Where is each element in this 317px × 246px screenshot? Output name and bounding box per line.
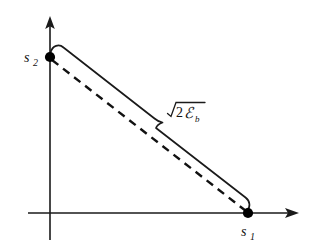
s1-label-subscript: 1	[250, 231, 255, 242]
s1-label-letter: s	[241, 224, 247, 239]
s1-point-dot	[243, 208, 253, 218]
s2-label-letter: s	[24, 50, 30, 65]
s2-point-dot	[45, 52, 55, 62]
coefficient-two: 2	[176, 105, 183, 120]
s2-label-subscript: 2	[33, 57, 38, 68]
constellation-diagram: s 2 s 1 2 ℰ b	[0, 0, 317, 246]
figure-canvas: s 2 s 1 2 ℰ b	[0, 0, 317, 246]
background	[0, 0, 317, 246]
script-e-subscript: b	[195, 114, 200, 124]
